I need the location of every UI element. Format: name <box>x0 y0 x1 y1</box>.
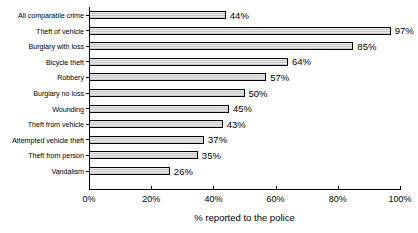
bar <box>89 167 170 175</box>
x-axis-tick <box>89 186 90 190</box>
bar <box>89 27 391 35</box>
bar <box>89 105 229 113</box>
category-label: Theft of vehicle <box>2 28 84 35</box>
category-label: Robbery <box>2 74 84 81</box>
bar-value-label: 50% <box>249 89 268 99</box>
bar <box>89 151 198 159</box>
category-label: Theft from person <box>2 152 84 159</box>
bar-value-label: 85% <box>357 42 376 52</box>
x-axis-tick <box>213 186 214 190</box>
bar <box>89 120 223 128</box>
x-axis-tick <box>151 186 152 190</box>
bar <box>89 42 353 50</box>
x-axis-tick <box>338 186 339 190</box>
bar-value-label: 64% <box>292 57 311 67</box>
x-axis-title: % reported to the police <box>89 213 400 223</box>
category-label: Vandalism <box>2 168 84 175</box>
x-axis-tick-label: 20% <box>126 195 176 204</box>
bar-value-label: 35% <box>202 151 221 161</box>
x-axis-tick-label: 40% <box>188 195 238 204</box>
category-label: Theft from vehicle <box>2 121 84 128</box>
category-label: All comparable crime <box>2 12 84 19</box>
bar <box>89 89 245 97</box>
category-label: Bicycle theft <box>2 59 84 66</box>
bar-value-label: 97% <box>395 26 414 36</box>
x-axis-line <box>89 189 401 190</box>
bar <box>89 73 266 81</box>
bar-value-label: 26% <box>174 167 193 177</box>
x-axis-tick-label: 60% <box>251 195 301 204</box>
bar <box>89 136 204 144</box>
bar-value-label: 57% <box>270 73 289 83</box>
bar <box>89 11 226 19</box>
x-axis-tick-label: 100% <box>375 195 418 204</box>
x-axis-tick-label: 80% <box>313 195 363 204</box>
bar-value-label: 37% <box>208 135 227 145</box>
bar-value-label: 45% <box>233 104 252 114</box>
x-axis-tick <box>400 186 401 190</box>
category-label: Attempted vehicle theft <box>2 137 84 144</box>
category-label: Burglary with loss <box>2 43 84 50</box>
x-axis-tick-label: 0% <box>64 195 114 204</box>
bar-value-label: 43% <box>227 120 246 130</box>
bar <box>89 58 288 66</box>
x-axis-tick <box>276 186 277 190</box>
bar-value-label: 44% <box>230 11 249 21</box>
category-label: Burglary no loss <box>2 90 84 97</box>
category-label: Wounding <box>2 106 84 113</box>
